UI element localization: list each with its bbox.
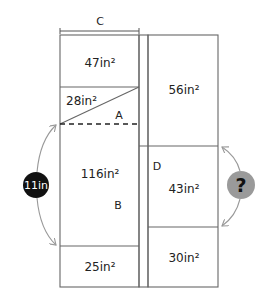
label-b: B	[114, 199, 122, 212]
area-diagram: C 47in² 28in² A 116in² B 25in² 56in² D 4…	[0, 0, 272, 303]
left-column	[60, 35, 139, 287]
area-middle-right: 43in²	[168, 182, 199, 196]
narrow-strip	[139, 35, 148, 287]
area-top-right: 56in²	[168, 83, 199, 97]
area-triangle: 28in²	[66, 94, 97, 108]
area-bottom-left: 25in²	[84, 260, 115, 274]
measure-11in-label: 11in	[24, 179, 48, 192]
area-middle-left: 116in²	[81, 167, 120, 181]
label-a: A	[115, 109, 123, 122]
dimension-c-label: C	[96, 15, 104, 28]
dimension-c-bracket	[60, 28, 139, 34]
label-d: D	[153, 160, 161, 173]
unknown-measure-label: ?	[235, 174, 246, 196]
area-top-left: 47in²	[84, 56, 115, 70]
area-bottom-right: 30in²	[168, 251, 199, 265]
